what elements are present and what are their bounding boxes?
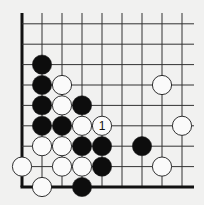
white-stone [52,75,71,94]
black-stone [32,116,51,135]
white-stone [152,157,171,176]
black-stone [32,55,51,74]
black-stone [92,137,111,156]
black-stone [52,116,71,135]
white-stone [72,116,91,135]
black-stone [132,137,151,156]
white-stone [72,157,91,176]
black-stone [72,137,91,156]
black-stone [32,75,51,94]
black-stone [72,177,91,196]
white-stone [52,96,71,115]
move-number-label: 1 [99,119,106,133]
black-stone [32,96,51,115]
black-stone [72,96,91,115]
white-stone [32,177,51,196]
white-stone [52,157,71,176]
white-stone [52,137,71,156]
white-stone [152,75,171,94]
white-stone [32,137,51,156]
white-stone [172,116,191,135]
white-stone [12,157,31,176]
black-stone [92,157,111,176]
go-board: 1 [0,0,204,205]
